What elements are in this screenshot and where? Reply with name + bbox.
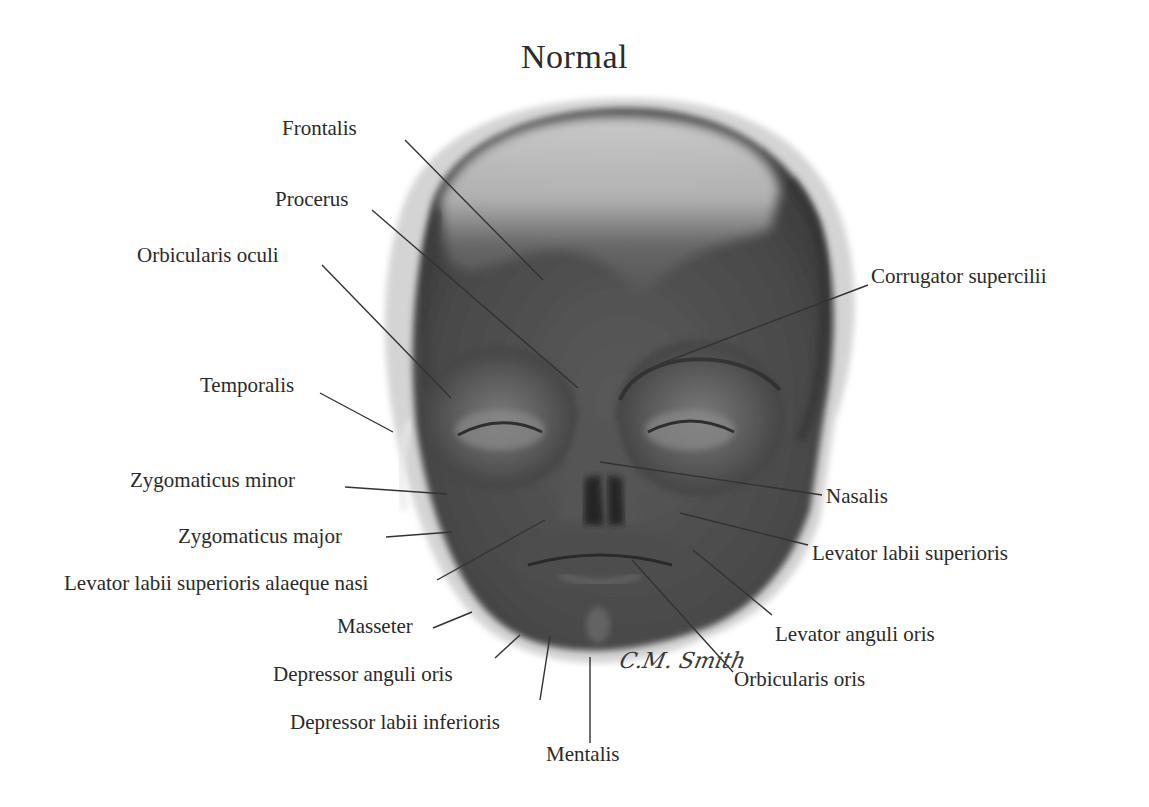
label-mentalis: Mentalis [546, 742, 620, 766]
leader-temporalis [320, 393, 393, 432]
label-frontalis: Frontalis [282, 116, 357, 140]
label-procerus: Procerus [275, 187, 348, 211]
label-corrugator-supercilii: Corrugator supercilii [871, 264, 1047, 288]
anatomy-diagram: Normal Frontalis Procerus Orbicularis oc… [0, 0, 1149, 807]
label-masseter: Masseter [337, 614, 413, 638]
right-eye-orbit [615, 340, 785, 496]
label-zygomaticus-major: Zygomaticus major [178, 524, 342, 548]
leader-masseter [433, 612, 472, 628]
artist-signature: C.M. Smith [617, 648, 748, 673]
label-levator-anguli-oris: Levator anguli oris [775, 622, 935, 646]
label-depressor-anguli-oris: Depressor anguli oris [273, 662, 453, 686]
label-nasalis: Nasalis [826, 484, 888, 508]
face-muscle-illustration [0, 0, 1149, 807]
label-orbicularis-oculi: Orbicularis oculi [137, 243, 279, 267]
label-levator-labii-superioris-alaeque-nasi: Levator labii superioris alaeque nasi [64, 571, 368, 595]
label-temporalis: Temporalis [200, 373, 294, 397]
label-orbicularis-oris: Orbicularis oris [734, 667, 865, 691]
label-levator-labii-superioris: Levator labii superioris [812, 541, 1008, 565]
label-depressor-labii-inferioris: Depressor labii inferioris [290, 710, 500, 734]
label-zygomaticus-minor: Zygomaticus minor [130, 468, 295, 492]
diagram-title: Normal [0, 38, 1149, 76]
